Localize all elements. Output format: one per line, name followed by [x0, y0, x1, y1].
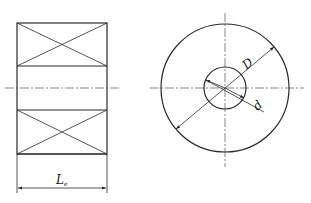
technical-diagram: Le D d: [0, 0, 311, 203]
side-view: Le: [5, 23, 120, 193]
lower-section-cross: [17, 110, 107, 154]
upper-section-cross: [17, 23, 107, 66]
inner-diameter-arrow-left: [206, 80, 225, 88]
length-label: Le: [55, 173, 68, 187]
inner-diameter-arrow-right: [225, 88, 244, 98]
side-view-outline: [17, 23, 107, 154]
outer-diameter-label: D: [239, 55, 256, 73]
length-dimension: Le: [17, 154, 107, 193]
front-view: D d: [150, 13, 304, 167]
inner-diameter-label: d: [250, 97, 265, 113]
